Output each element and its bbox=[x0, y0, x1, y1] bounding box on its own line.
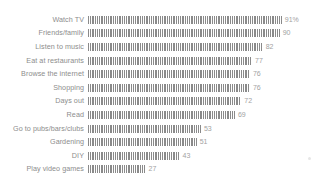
category-label: Listen to music bbox=[0, 43, 88, 51]
bar-value-label: 27 bbox=[146, 165, 157, 173]
table-row: Shopping 76 bbox=[0, 81, 317, 95]
bar-zone: 76 bbox=[88, 81, 317, 95]
category-label: Eat at restaurants bbox=[0, 57, 88, 65]
table-row: Play video games 27 bbox=[0, 163, 317, 177]
bar-zone: 51 bbox=[88, 135, 317, 149]
horizontal-bar-chart: Watch TV 91% Friends/family 90 Listen to… bbox=[0, 0, 317, 184]
bar bbox=[88, 70, 250, 78]
category-label: Go to pubs/bars/clubs bbox=[0, 125, 88, 133]
bar-value-label: 82 bbox=[263, 43, 274, 51]
category-label: DIY bbox=[0, 152, 88, 160]
category-label: Play video games bbox=[0, 165, 88, 173]
bar bbox=[88, 29, 280, 37]
bar bbox=[88, 152, 180, 160]
table-row: Browse the internet 76 bbox=[0, 67, 317, 81]
bar-zone: 27 bbox=[88, 163, 317, 177]
bar-zone: 69 bbox=[88, 108, 317, 122]
bar-value-label: 43 bbox=[180, 152, 191, 160]
bar bbox=[88, 165, 146, 173]
bar-value-label: 90 bbox=[280, 29, 291, 37]
bar bbox=[88, 138, 197, 146]
bar-value-label: 76 bbox=[250, 70, 261, 78]
table-row: Read 69 bbox=[0, 108, 317, 122]
bar bbox=[88, 16, 282, 24]
bar-zone: 82 bbox=[88, 40, 317, 54]
bar-zone: 77 bbox=[88, 54, 317, 68]
bar-zone: 53 bbox=[88, 122, 317, 136]
bar-value-label: 72 bbox=[241, 97, 252, 105]
bar-value-label: 77 bbox=[252, 57, 263, 65]
bar bbox=[88, 97, 241, 105]
table-row: Days out 72 bbox=[0, 95, 317, 109]
bar bbox=[88, 111, 235, 119]
bar-value-label: 69 bbox=[235, 111, 246, 119]
bar-zone: 72 bbox=[88, 95, 317, 109]
category-label: Days out bbox=[0, 97, 88, 105]
bar-zone: 90 bbox=[88, 27, 317, 41]
category-label: Browse the internet bbox=[0, 70, 88, 78]
bar-zone: 43 bbox=[88, 149, 317, 163]
bar-value-label: 91% bbox=[282, 16, 299, 24]
bar-zone: 91% bbox=[88, 13, 317, 27]
table-row: Gardening 51 bbox=[0, 135, 317, 149]
category-label: Watch TV bbox=[0, 16, 88, 24]
bar bbox=[88, 57, 252, 65]
table-row: Watch TV 91% bbox=[0, 13, 317, 27]
bar-value-label: 51 bbox=[197, 138, 208, 146]
table-row: Friends/family 90 bbox=[0, 27, 317, 41]
scan-artifact-speck bbox=[308, 157, 311, 160]
bar-rows-container: Watch TV 91% Friends/family 90 Listen to… bbox=[0, 13, 317, 176]
table-row: Eat at restaurants 77 bbox=[0, 54, 317, 68]
bar-zone: 76 bbox=[88, 67, 317, 81]
category-label: Read bbox=[0, 111, 88, 119]
table-row: Listen to music 82 bbox=[0, 40, 317, 54]
bar-value-label: 53 bbox=[201, 125, 212, 133]
bar bbox=[88, 125, 201, 133]
table-row: Go to pubs/bars/clubs 53 bbox=[0, 122, 317, 136]
table-row: DIY 43 bbox=[0, 149, 317, 163]
bar bbox=[88, 84, 250, 92]
category-label: Gardening bbox=[0, 138, 88, 146]
bar-value-label: 76 bbox=[250, 84, 261, 92]
bar bbox=[88, 43, 263, 51]
category-label: Shopping bbox=[0, 84, 88, 92]
category-label: Friends/family bbox=[0, 29, 88, 37]
